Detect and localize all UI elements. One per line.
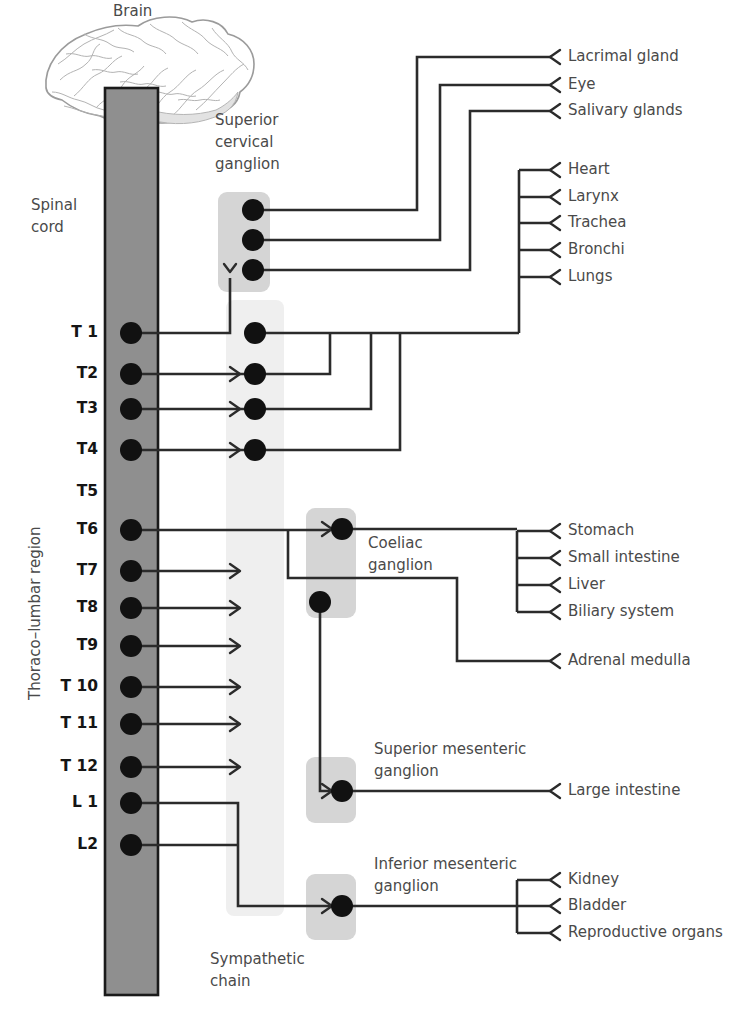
organ-label-adrenal-medulla: Adrenal medulla (568, 651, 691, 669)
spinal-segment-label-t7: T7 (20, 561, 98, 579)
superior-cervical-ganglion-label-3: ganglion (215, 155, 280, 174)
chevron-biliary-system (550, 605, 560, 619)
spinal-segment-label-l2: L2 (20, 835, 98, 853)
spinal-segment-label-t9: T9 (20, 636, 98, 654)
chevron-small-intestine (550, 551, 560, 565)
spinal-segment-label-t5: T5 (20, 482, 98, 500)
organ-label-bronchi: Bronchi (568, 240, 625, 258)
organ-label-larynx: Larynx (568, 187, 619, 205)
chevron-large-intestine (550, 784, 560, 798)
superior-cervical-ganglion-label-2: cervical (215, 133, 273, 152)
chevron-trachea (550, 216, 560, 230)
spinal-segment-label-t1: T 1 (20, 323, 98, 341)
organ-label-small-intestine: Small intestine (568, 548, 680, 566)
cervical-ganglion-node-3 (242, 259, 264, 281)
coeliac-ganglion-label-2: ganglion (368, 556, 433, 575)
sympathetic-chain-label-1: Sympathetic (210, 950, 305, 969)
chevron-salivary-glands (550, 104, 560, 118)
coeliac-ganglion-node (331, 518, 353, 540)
brain-label: Brain (113, 2, 152, 21)
organ-label-salivary-glands: Salivary glands (568, 101, 683, 119)
cord-node-t7 (120, 560, 142, 582)
chain-node-t2 (244, 363, 266, 385)
inferior-mesenteric-ganglion-label-2: ganglion (374, 877, 439, 896)
cord-node-l2 (120, 834, 142, 856)
cord-node-t3 (120, 398, 142, 420)
chevron-bladder (550, 899, 560, 913)
chain-node-t4 (244, 439, 266, 461)
cord-node-t2 (120, 363, 142, 385)
superior-cervical-ganglion-label-1: Superior (215, 111, 278, 130)
spinal-segment-label-t8: T8 (20, 598, 98, 616)
spinal-segment-label-t3: T3 (20, 399, 98, 417)
sympathetic-chain-label-2: chain (210, 972, 251, 991)
chevron-reproductive-organs (550, 926, 560, 940)
nervous-system-svg (0, 0, 741, 1013)
organ-label-stomach: Stomach (568, 521, 634, 539)
coeliac-ganglion-label-1: Coeliac (368, 534, 423, 553)
chevron-bronchi (550, 243, 560, 257)
chevron-liver (550, 578, 560, 592)
cervical-ganglion-node-1 (242, 199, 264, 221)
cord-node-t8 (120, 597, 142, 619)
organ-label-lungs: Lungs (568, 267, 612, 285)
path-eye (253, 85, 552, 240)
superior-mesenteric-ganglion-label-2: ganglion (374, 762, 439, 781)
chevron-adrenal-medulla (550, 654, 560, 668)
organ-label-eye: Eye (568, 75, 596, 93)
chevron-lacrimal-gland (550, 50, 560, 64)
spinal-segment-label-t2: T2 (20, 364, 98, 382)
superior-mesenteric-ganglion-node (331, 780, 353, 802)
organ-label-lacrimal-gland: Lacrimal gland (568, 47, 679, 65)
spinal-segment-label-t10: T 10 (20, 677, 98, 695)
chevron-kidney (550, 873, 560, 887)
inferior-mesenteric-ganglion-label-1: Inferior mesenteric (374, 855, 517, 874)
spinal-segment-label-t4: T4 (20, 440, 98, 458)
organ-label-biliary-system: Biliary system (568, 602, 674, 620)
spinal-cord-bar (105, 88, 158, 995)
organ-label-liver: Liver (568, 575, 605, 593)
cord-node-t1 (120, 322, 142, 344)
organ-label-bladder: Bladder (568, 896, 626, 914)
organ-label-heart: Heart (568, 160, 610, 178)
spinal-cord-label-line2: cord (31, 218, 64, 237)
organ-label-large-intestine: Large intestine (568, 781, 680, 799)
cord-node-t6 (120, 519, 142, 541)
spinal-segment-label-t11: T 11 (20, 714, 98, 732)
path-lacrimal-gland (253, 57, 552, 210)
cord-node-t10 (120, 676, 142, 698)
spinal-segment-label-l1: L 1 (20, 793, 98, 811)
coeliac-ganglion-node-lower (309, 591, 331, 613)
spinal-segment-label-t12: T 12 (20, 757, 98, 775)
cord-node-l1 (120, 792, 142, 814)
superior-mesenteric-ganglion-label-1: Superior mesenteric (374, 740, 526, 759)
organ-label-kidney: Kidney (568, 870, 619, 888)
chain-node-t1 (244, 322, 266, 344)
spinal-segment-label-t6: T6 (20, 520, 98, 538)
chain-node-t3 (244, 398, 266, 420)
inferior-mesenteric-ganglion-node (331, 895, 353, 917)
diagram-canvas: Brain Spinal cord Thoraco–lumbar region … (0, 0, 741, 1013)
cord-node-t11 (120, 713, 142, 735)
chevron-stomach (550, 524, 560, 538)
cord-node-t12 (120, 756, 142, 778)
chevron-larynx (550, 190, 560, 204)
cord-node-t9 (120, 635, 142, 657)
cord-node-t4 (120, 439, 142, 461)
organ-label-reproductive-organs: Reproductive organs (568, 923, 723, 941)
organ-label-trachea: Trachea (568, 213, 627, 231)
spinal-cord-label-line1: Spinal (31, 196, 77, 215)
path-salivary-glands (253, 111, 552, 270)
cervical-ganglion-node-2 (242, 229, 264, 251)
chevron-lungs (550, 270, 560, 284)
chevron-eye (550, 78, 560, 92)
chevron-heart (550, 163, 560, 177)
